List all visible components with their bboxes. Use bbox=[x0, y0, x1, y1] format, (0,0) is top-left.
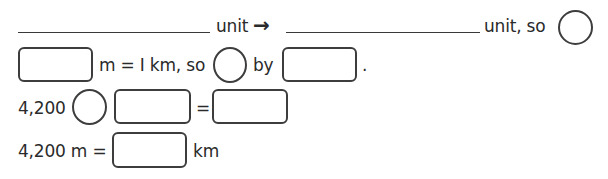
blank-line-2[interactable] bbox=[286, 32, 480, 33]
row3-number: 4,200 bbox=[18, 98, 66, 118]
row3-equals: = bbox=[196, 98, 210, 118]
row4-label: 4,200 m = bbox=[18, 141, 106, 161]
answer-box-km[interactable] bbox=[112, 132, 187, 168]
arrow-right-icon: → bbox=[253, 15, 270, 35]
operation-circle-1[interactable] bbox=[558, 10, 593, 45]
row2-period: . bbox=[362, 55, 367, 75]
answer-box-factor[interactable] bbox=[282, 47, 357, 82]
row1-unit-label: unit bbox=[216, 16, 248, 36]
row2-m-equals-km-label: m = I km, so bbox=[99, 55, 205, 75]
row4-km-unit: km bbox=[193, 141, 219, 161]
row2-by-label: by bbox=[253, 55, 273, 75]
row1-unit-so-label: unit, so bbox=[484, 16, 545, 36]
operation-circle-2[interactable] bbox=[213, 47, 247, 83]
blank-line-1[interactable] bbox=[18, 32, 210, 33]
operation-circle-3[interactable] bbox=[72, 89, 107, 125]
answer-box-result[interactable] bbox=[212, 89, 288, 124]
answer-box-meters[interactable] bbox=[18, 47, 93, 82]
answer-box-divisor[interactable] bbox=[114, 89, 191, 124]
